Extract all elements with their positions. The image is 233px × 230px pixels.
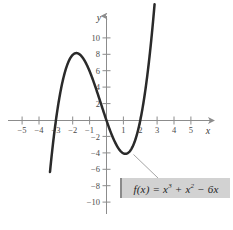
x-axis-label: x (205, 125, 211, 136)
function-curve (50, 4, 155, 172)
cubic-function-figure: −5 −4 −3 −2 −1 1 2 3 4 5 10 8 6 4 2 −2 −… (0, 0, 233, 230)
x-tick-label: −2 (68, 125, 77, 135)
x-tick-label: 5 (189, 125, 193, 135)
x-tick-label: 1 (121, 125, 125, 135)
y-tick-label: −8 (91, 181, 100, 191)
equation-label-text: f(x) = x3 + x2 − 6x (134, 182, 219, 195)
annotation-leader-line (134, 155, 159, 179)
y-tick-label: −2 (91, 132, 100, 142)
x-tick-label: −5 (18, 125, 27, 135)
x-tick-label: 3 (155, 125, 159, 135)
equation-label-box: f(x) = x3 + x2 − 6x (120, 178, 230, 198)
y-tick-label: −6 (91, 164, 100, 174)
x-tick-label: 4 (172, 125, 177, 135)
x-tick-label: −4 (34, 125, 44, 135)
y-tick-label: 6 (96, 66, 100, 76)
y-tick-label: 10 (92, 33, 101, 43)
y-tick-label: −10 (87, 197, 100, 207)
x-axis-tick-labels: −5 −4 −3 −2 −1 1 2 3 4 5 (18, 125, 193, 135)
y-axis-label: y (96, 12, 102, 23)
y-tick-label: −4 (91, 148, 101, 158)
y-tick-label: 8 (96, 49, 100, 59)
